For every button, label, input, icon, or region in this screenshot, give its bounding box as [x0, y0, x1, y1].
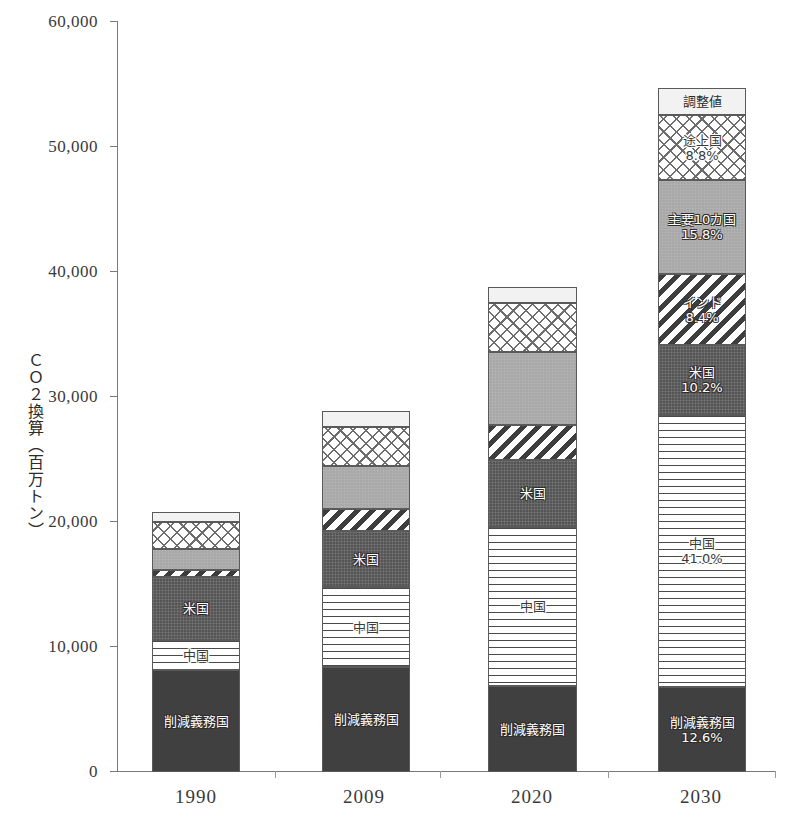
segment-2009-major10[interactable]	[322, 466, 410, 509]
segment-2020-adjust[interactable]	[488, 287, 577, 303]
bar-1990[interactable]: 米国 中国 削減義務国	[152, 512, 240, 772]
segment-percent: 8.4%	[685, 310, 718, 325]
segment-1990-usa[interactable]: 米国	[152, 577, 240, 640]
x-label-2009: 2009	[304, 786, 424, 808]
x-tick-4	[775, 771, 776, 778]
segment-2030-developing[interactable]: 途上国 8.8%	[658, 115, 746, 180]
segment-label: 中国	[520, 599, 546, 614]
y-tick-20000	[110, 521, 117, 522]
x-label-1990: 1990	[136, 786, 256, 808]
segment-2009-india[interactable]	[322, 509, 410, 531]
bar-2030[interactable]: 調整値 途上国 8.8% 主要10カ国 15.8% インド 8.4% 米国 10…	[658, 88, 746, 772]
segment-1990-developing[interactable]	[152, 522, 240, 549]
y-tick-0	[110, 771, 117, 772]
segment-1990-india[interactable]	[152, 570, 240, 577]
segment-label: 途上国	[683, 133, 722, 148]
y-tick-10000	[110, 646, 117, 647]
segment-percent: 15.8%	[681, 227, 722, 242]
segment-2030-adjust[interactable]: 調整値	[658, 88, 746, 115]
segment-label: 削減義務国	[164, 714, 229, 729]
bar-2009[interactable]: 米国 中国 削減義務国	[322, 411, 410, 772]
segment-2030-china[interactable]: 中国 41.0%	[658, 415, 746, 687]
segment-2020-developing[interactable]	[488, 303, 577, 352]
segment-2030-usa[interactable]: 米国 10.2%	[658, 345, 746, 415]
y-tick-label-10000: 10,000	[26, 638, 98, 655]
x-label-2030: 2030	[641, 786, 761, 808]
segment-percent: 41.0%	[681, 551, 722, 566]
segment-2009-china[interactable]: 中国	[322, 587, 410, 667]
segment-label: 米国	[520, 486, 546, 501]
bar-2020[interactable]: 米国 中国 削減義務国	[488, 287, 577, 772]
segment-2030-reduction[interactable]: 削減義務国 12.6%	[658, 687, 746, 772]
segment-1990-major10[interactable]	[152, 549, 240, 570]
y-tick-40000	[110, 271, 117, 272]
segment-2020-india[interactable]	[488, 425, 577, 460]
segment-2020-reduction[interactable]: 削減義務国	[488, 686, 577, 772]
segment-percent: 8.8%	[685, 148, 718, 163]
segment-1990-reduction[interactable]: 削減義務国	[152, 670, 240, 772]
y-tick-50000	[110, 146, 117, 147]
segment-label: 中国	[353, 620, 379, 635]
segment-label: インド	[683, 295, 722, 310]
segment-2009-developing[interactable]	[322, 427, 410, 466]
segment-2020-major10[interactable]	[488, 352, 577, 425]
x-tick-1	[275, 771, 276, 778]
segment-label: 調整値	[683, 94, 722, 109]
segment-label: 削減義務国	[670, 715, 735, 730]
segment-percent: 10.2%	[681, 380, 722, 395]
segment-label: 米国	[689, 365, 715, 380]
y-tick-label-60000: 60,000	[26, 13, 98, 30]
segment-percent: 12.6%	[681, 730, 722, 745]
y-tick-30000	[110, 396, 117, 397]
x-tick-3	[608, 771, 609, 778]
segment-label: 米国	[353, 552, 379, 567]
segment-2009-reduction[interactable]: 削減義務国	[322, 667, 410, 772]
y-tick-label-0: 0	[26, 763, 98, 780]
segment-label: 米国	[183, 601, 209, 616]
segment-label: 削減義務国	[334, 712, 399, 727]
segment-2020-china[interactable]: 中国	[488, 527, 577, 686]
y-tick-60000	[110, 21, 117, 22]
segment-2030-major10[interactable]: 主要10カ国 15.8%	[658, 180, 746, 274]
segment-1990-china[interactable]: 中国	[152, 640, 240, 670]
y-axis-title: ＣＯ２換算（百万トン）	[18, 352, 44, 539]
y-tick-label-40000: 40,000	[26, 263, 98, 280]
segment-1990-adjust[interactable]	[152, 512, 240, 522]
segment-label: 中国	[689, 536, 715, 551]
segment-2009-adjust[interactable]	[322, 411, 410, 427]
segment-label: 中国	[183, 648, 209, 663]
y-axis-line	[117, 21, 118, 772]
x-tick-2	[440, 771, 441, 778]
segment-2009-usa[interactable]: 米国	[322, 531, 410, 587]
x-label-2020: 2020	[472, 786, 592, 808]
y-tick-label-50000: 50,000	[26, 138, 98, 155]
segment-2020-usa[interactable]: 米国	[488, 460, 577, 527]
segment-label: 削減義務国	[500, 722, 565, 737]
segment-2030-india[interactable]: インド 8.4%	[658, 274, 746, 345]
stacked-bar-chart: 60,000 50,000 40,000 30,000 20,000 10,00…	[0, 0, 792, 824]
segment-label: 主要10カ国	[668, 212, 737, 227]
